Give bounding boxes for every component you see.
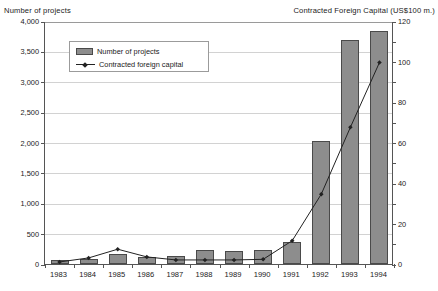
gridline (45, 234, 392, 235)
x-tick (307, 264, 308, 268)
gridline (45, 204, 392, 205)
bar (109, 254, 127, 264)
left-tick (41, 204, 45, 205)
x-axis-label: 1992 (306, 270, 335, 279)
x-axis-label: 1991 (277, 270, 306, 279)
chart-figure: Number of projects Contracted Foreign Ca… (0, 0, 438, 291)
line-marker-icon (76, 61, 95, 68)
legend-item-bars: Number of projects (76, 46, 159, 57)
left-tick-label: 4,000 (21, 17, 40, 26)
x-tick (365, 264, 366, 268)
x-tick (394, 264, 395, 268)
right-minor-tick (393, 244, 396, 245)
bar-swatch-icon (76, 48, 93, 55)
x-tick (220, 264, 221, 268)
left-tick-label: 2,000 (21, 139, 40, 148)
x-tick (103, 264, 104, 268)
bar (370, 31, 388, 264)
x-tick (132, 264, 133, 268)
x-axis-label: 1983 (44, 270, 73, 279)
left-tick (41, 234, 45, 235)
left-tick (41, 173, 45, 174)
left-tick-label: 0 (35, 260, 39, 269)
right-tick (392, 143, 396, 144)
right-tick-label: 80 (398, 98, 406, 107)
right-tick-label: 100 (398, 58, 410, 67)
gridline (45, 173, 392, 174)
x-tick (278, 264, 279, 268)
x-axis-label: 1984 (73, 270, 102, 279)
left-tick-label: 500 (27, 230, 39, 239)
right-tick (392, 184, 396, 185)
legend-item-line: Contracted foreign capital (76, 59, 183, 70)
x-axis-label: 1990 (248, 270, 277, 279)
right-axis-title: Contracted Foreign Capital (US$100 m.) (293, 6, 435, 15)
right-minor-tick (393, 204, 396, 205)
right-tick-label: 120 (398, 17, 410, 26)
x-tick (336, 264, 337, 268)
right-minor-tick (393, 123, 396, 124)
left-tick-label: 1,500 (21, 169, 40, 178)
left-tick-label: 1,000 (21, 199, 40, 208)
x-axis-label: 1988 (189, 270, 218, 279)
right-tick-label: 20 (398, 220, 406, 229)
right-tick (392, 224, 396, 225)
chart-legend: Number of projects Contracted foreign ca… (69, 41, 209, 72)
x-tick (190, 264, 191, 268)
legend-label-line: Contracted foreign capital (99, 60, 183, 69)
left-tick-label: 3,500 (21, 47, 40, 56)
left-tick-label: 3,000 (21, 78, 40, 87)
x-tick (74, 264, 75, 268)
x-tick (161, 264, 162, 268)
right-tick-label: 40 (398, 179, 406, 188)
left-axis-title: Number of projects (4, 6, 71, 15)
right-tick (392, 62, 396, 63)
right-tick (392, 103, 396, 104)
right-minor-tick (393, 82, 396, 83)
x-axis-label: 1987 (160, 270, 189, 279)
x-axis-label: 1994 (364, 270, 393, 279)
x-axis-label: 1985 (102, 270, 131, 279)
left-tick-label: 2,500 (21, 108, 40, 117)
right-tick-label: 60 (398, 139, 406, 148)
right-tick (392, 22, 396, 23)
x-axis-label: 1993 (335, 270, 364, 279)
x-axis-label: 1989 (219, 270, 248, 279)
right-minor-tick (393, 163, 396, 164)
x-axis-label: 1986 (131, 270, 160, 279)
x-tick (45, 264, 46, 268)
right-tick-label: 0 (398, 260, 402, 269)
right-minor-tick (393, 42, 396, 43)
legend-label-bars: Number of projects (97, 47, 159, 56)
x-tick (249, 264, 250, 268)
